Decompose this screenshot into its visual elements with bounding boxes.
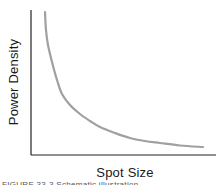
x-axis-label: Spot Size — [96, 165, 153, 180]
plot-area — [0, 0, 216, 185]
y-axis-label: Power Density — [6, 39, 21, 125]
chart-figure: Power Density Spot Size FIGURE 33-3 Sche… — [0, 0, 216, 185]
power-density-curve — [45, 12, 203, 147]
figure-caption: FIGURE 33-3 Schematic illustration... — [2, 180, 146, 185]
